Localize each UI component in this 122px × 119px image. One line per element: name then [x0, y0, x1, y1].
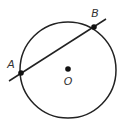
point-b	[91, 24, 97, 30]
label-o: O	[64, 75, 73, 88]
point-a	[18, 70, 24, 76]
label-b: B	[91, 7, 99, 20]
circle-diagram: A B O	[0, 0, 122, 119]
label-a: A	[6, 58, 15, 71]
center-point-o	[65, 66, 71, 72]
